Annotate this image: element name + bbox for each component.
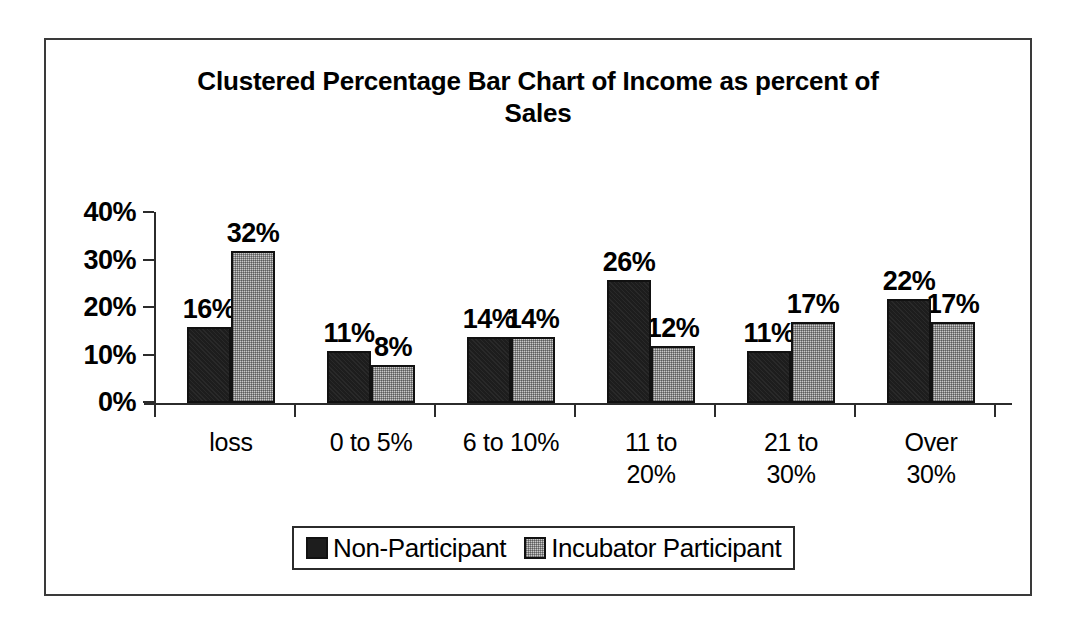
bar: [651, 346, 695, 403]
legend-label: Incubator Participant: [551, 533, 781, 564]
bar: [791, 322, 835, 403]
y-axis-tick: 20%: [143, 306, 154, 308]
bar: [467, 337, 511, 404]
category-label: 11 to 20%: [583, 426, 719, 490]
legend-swatch-icon: [306, 537, 328, 559]
category-label: 6 to 10%: [443, 426, 579, 458]
x-axis-tick: [854, 404, 856, 417]
y-axis-tick-label: 40%: [83, 197, 136, 228]
x-axis-tick: [574, 404, 576, 417]
x-axis-tick: [994, 404, 996, 417]
y-axis-tick-label: 30%: [83, 244, 136, 275]
legend-entry[interactable]: Non-Participant: [306, 533, 506, 564]
legend-label: Non-Participant: [333, 533, 506, 564]
chart-frame: Clustered Percentage Bar Chart of Income…: [44, 38, 1032, 596]
category-label: loss: [163, 426, 299, 458]
bar-value-label: 17%: [778, 289, 848, 320]
y-axis-tick-label: 0%: [98, 387, 136, 418]
bar: [747, 351, 791, 403]
legend-swatch-icon: [524, 537, 546, 559]
y-axis-tick: 40%: [143, 211, 154, 213]
bar-value-label: 14%: [498, 304, 568, 335]
category-label: 21 to 30%: [723, 426, 859, 490]
x-axis-tick: [714, 404, 716, 417]
bar: [887, 299, 931, 404]
bar: [231, 251, 275, 403]
y-axis-tick-label: 20%: [83, 292, 136, 323]
bar-value-label: 26%: [594, 247, 664, 278]
bar: [511, 337, 555, 404]
bar: [187, 327, 231, 403]
bar: [371, 365, 415, 403]
x-axis-tick: [434, 404, 436, 417]
bar: [607, 280, 651, 404]
y-axis-tick-label: 10%: [83, 339, 136, 370]
bar: [931, 322, 975, 403]
y-axis-line: [154, 212, 156, 404]
category-label: 0 to 5%: [303, 426, 439, 458]
plot-area: 0%10%20%30%40% 16%32%11%8%14%14%26%12%11…: [154, 214, 1022, 404]
y-axis-tick: 30%: [143, 259, 154, 261]
y-axis-tick: 0%: [143, 401, 154, 403]
chart-title: Clustered Percentage Bar Chart of Income…: [46, 66, 1030, 129]
x-axis-tick: [154, 404, 156, 417]
y-axis-tick: 10%: [143, 354, 154, 356]
category-label: Over 30%: [863, 426, 999, 490]
x-axis-line: [144, 403, 1012, 405]
chart-legend: Non-ParticipantIncubator Participant: [292, 526, 795, 570]
x-axis-tick: [294, 404, 296, 417]
bar-value-label: 32%: [218, 218, 288, 249]
legend-entry[interactable]: Incubator Participant: [524, 533, 781, 564]
bar: [327, 351, 371, 403]
